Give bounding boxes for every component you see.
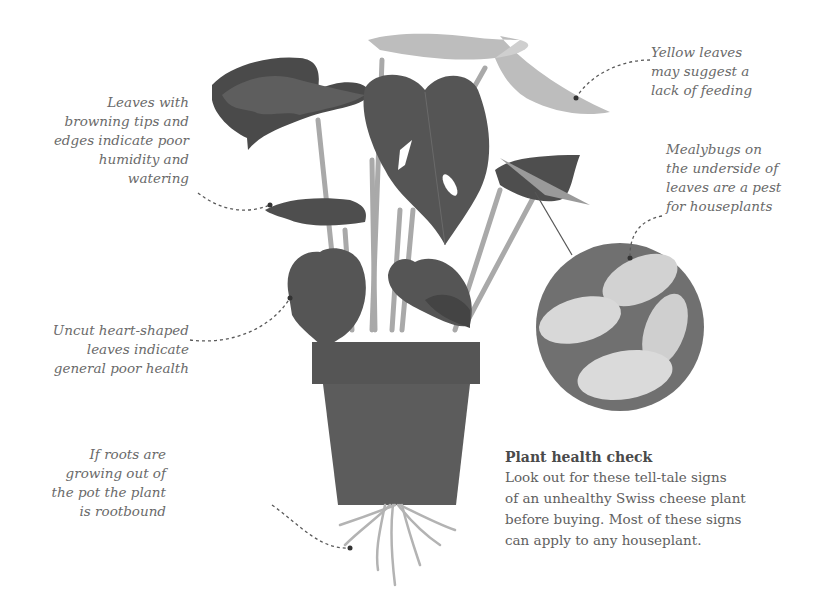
callout-line: for houseplants — [666, 197, 781, 216]
callout-line: Yellow leaves — [651, 43, 752, 62]
info-line: Look out for these tell-tale signs — [505, 467, 746, 488]
monstera-leaf — [364, 75, 490, 245]
heart-leaf-right — [388, 259, 472, 328]
heart-leaf-left — [288, 248, 366, 350]
browning-leaf — [212, 57, 370, 150]
info-line: before buying. Most of these signs — [505, 509, 746, 530]
roots — [340, 505, 455, 585]
callout-line: humidity and — [54, 150, 189, 169]
callout-mealybugs: Mealybugs on the underside of leaves are… — [666, 140, 781, 216]
callout-yellow-leaves: Yellow leaves may suggest a lack of feed… — [651, 43, 752, 100]
callout-line: growing out of — [52, 464, 166, 483]
callout-line: may suggest a — [651, 62, 752, 81]
callout-line: leaves indicate — [53, 340, 189, 359]
callout-line: If roots are — [52, 445, 166, 464]
callout-line: Mealybugs on — [666, 140, 781, 159]
info-title: Plant health check — [505, 448, 746, 467]
callout-line: the pot the plant — [52, 483, 166, 502]
callout-line: edges indicate poor — [54, 131, 189, 150]
info-line: of an unhealthy Swiss cheese plant — [505, 488, 746, 509]
magnifier-pointer — [535, 192, 572, 255]
callout-line: leaves are a pest — [666, 178, 781, 197]
callout-line: general poor health — [53, 359, 189, 378]
info-line: can apply to any houseplant. — [505, 530, 746, 551]
mealybug-magnifier — [534, 243, 704, 411]
plant-health-check-box: Plant health check Look out for these te… — [505, 448, 746, 551]
flower-pot — [312, 342, 480, 505]
callout-line: lack of feeding — [651, 81, 752, 100]
callout-line: is rootbound — [52, 502, 166, 521]
info-body: Look out for these tell-tale signs of an… — [505, 467, 746, 551]
callout-uncut-leaves: Uncut heart-shaped leaves indicate gener… — [53, 321, 189, 378]
callout-rootbound: If roots are growing out of the pot the … — [52, 445, 166, 521]
mealybug-leaf — [495, 155, 590, 205]
callout-line: watering — [54, 169, 189, 188]
callout-line: browning tips and — [54, 112, 189, 131]
callout-browning-leaves: Leaves with browning tips and edges indi… — [54, 93, 189, 188]
callout-line: Leaves with — [54, 93, 189, 112]
callout-line: the underside of — [666, 159, 781, 178]
callout-line: Uncut heart-shaped — [53, 321, 189, 340]
mid-left-leaf — [265, 198, 366, 225]
